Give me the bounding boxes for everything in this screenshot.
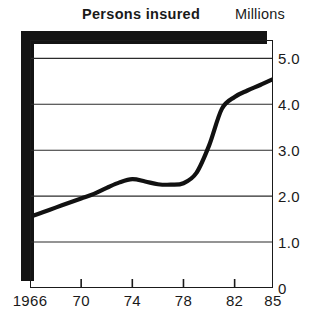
y-axis-unit-label: Millions	[235, 6, 285, 22]
plot-frame-border	[30, 40, 273, 288]
x-axis-tick-labels: 19667074788285	[0, 292, 321, 318]
y-axis-tick-label: 1.0	[278, 234, 300, 251]
y-axis-tick-label: 5.0	[278, 50, 300, 67]
x-axis-tick-label: 70	[73, 292, 90, 309]
x-axis-tick-label: 78	[175, 292, 192, 309]
page-title: Persons insured	[82, 6, 200, 22]
x-axis-tick-label: 74	[124, 292, 141, 309]
x-axis-tick-label: 1966	[13, 292, 48, 309]
chart-header: Persons insured Millions	[0, 6, 321, 26]
x-axis-tick-label: 82	[226, 292, 243, 309]
y-axis-tick-labels: 5.04.03.02.01.00	[278, 40, 321, 288]
y-axis-tick-label: 3.0	[278, 142, 300, 159]
y-axis-tick-label: 2.0	[278, 188, 300, 205]
chart-figure: Persons insured Millions 5.04.03.02.01.0…	[0, 0, 321, 329]
y-axis-tick-label: 4.0	[278, 96, 300, 113]
x-axis-tick-label: 85	[264, 292, 281, 309]
